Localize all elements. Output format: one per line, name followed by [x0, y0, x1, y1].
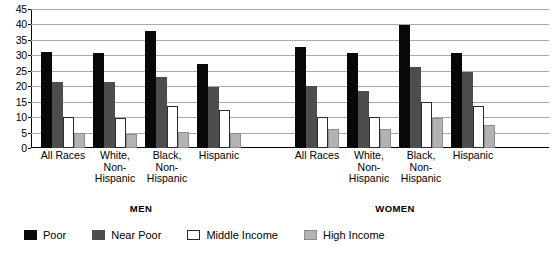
bar-high	[380, 129, 391, 148]
bar-middle	[473, 106, 484, 148]
bar-group	[399, 9, 443, 148]
y-tick-label: 20	[16, 81, 27, 92]
legend-swatch-middle-icon	[187, 230, 200, 240]
bar-group	[197, 9, 241, 148]
bar-groups	[31, 9, 549, 148]
bar-high	[230, 133, 241, 148]
y-tick-label: 35	[16, 35, 27, 46]
bar-poor	[399, 25, 410, 148]
bar-nearpoor	[156, 77, 167, 148]
legend-swatch-nearpoor-icon	[92, 230, 105, 240]
y-tick-label: 15	[16, 96, 27, 107]
bar-nearpoor	[306, 86, 317, 148]
legend-label: Middle Income	[206, 230, 278, 241]
legend-item-middle[interactable]: Middle Income	[187, 230, 278, 241]
bar-high	[126, 134, 137, 148]
section-title-women: WOMEN	[265, 203, 525, 214]
legend-label: Poor	[43, 230, 66, 241]
bar-nearpoor	[462, 72, 473, 148]
category-labels: All RacesWhite, Non- HispanicBlack, Non-…	[31, 150, 549, 196]
bar-group	[93, 9, 137, 148]
legend-item-high[interactable]: High Income	[304, 230, 385, 241]
bar-group	[41, 9, 85, 148]
y-tick-mark	[28, 148, 31, 149]
legend-swatch-high-icon	[304, 230, 317, 240]
category-label: Hispanic	[185, 150, 253, 162]
bar-poor	[295, 47, 306, 148]
legend-item-nearpoor[interactable]: Near Poor	[92, 230, 161, 241]
bar-high	[328, 129, 339, 148]
bar-group	[347, 9, 391, 148]
y-tick-label: 30	[16, 50, 27, 61]
bar-group	[145, 9, 189, 148]
bar-middle	[167, 106, 178, 148]
section-title-men: MEN	[11, 203, 271, 214]
bar-middle	[115, 118, 126, 148]
bar-group	[451, 9, 495, 148]
y-tick-label: 45	[16, 4, 27, 15]
bar-middle	[219, 110, 230, 148]
y-tick-label: 40	[16, 19, 27, 30]
bar-high	[432, 118, 443, 148]
bar-nearpoor	[52, 82, 63, 148]
bar-poor	[93, 53, 104, 148]
bar-nearpoor	[208, 87, 219, 148]
bar-nearpoor	[410, 67, 421, 148]
bar-middle	[421, 102, 432, 148]
y-tick-label: 0	[21, 143, 27, 154]
bar-poor	[451, 53, 462, 148]
plot-area: 454035302520151050	[31, 9, 549, 148]
bar-poor	[41, 52, 52, 148]
bar-nearpoor	[358, 91, 369, 148]
legend-label: Near Poor	[111, 230, 161, 241]
bar-high	[178, 132, 189, 148]
bar-high	[484, 125, 495, 148]
legend-item-poor[interactable]: Poor	[24, 230, 66, 241]
bar-middle	[369, 117, 380, 148]
bar-middle	[317, 117, 328, 149]
legend-label: High Income	[323, 230, 385, 241]
bar-chart: 454035302520151050 All RacesWhite, Non- …	[0, 0, 554, 253]
bar-poor	[197, 64, 208, 148]
y-tick-label: 25	[16, 66, 27, 77]
legend-swatch-poor-icon	[24, 230, 37, 240]
bar-high	[74, 133, 85, 148]
bar-nearpoor	[104, 82, 115, 148]
bar-poor	[145, 31, 156, 148]
chart-legend: PoorNear PoorMiddle IncomeHigh Income	[24, 225, 534, 245]
bar-group	[295, 9, 339, 148]
y-tick-label: 5	[21, 127, 27, 138]
category-label: Hispanic	[439, 150, 507, 162]
y-tick-label: 10	[16, 112, 27, 123]
bar-poor	[347, 53, 358, 148]
bar-middle	[63, 117, 74, 148]
